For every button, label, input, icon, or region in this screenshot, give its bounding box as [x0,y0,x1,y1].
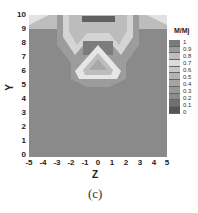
colorbar-label: 0.2 [183,95,191,101]
colorbar-label: 0.6 [183,67,191,73]
x-tick: 3 [133,158,147,167]
colorbar-swatch [169,73,180,80]
colorbar [169,40,180,114]
x-tick: -1 [78,158,92,167]
x-tick: -4 [36,158,50,167]
colorbar-swatch [169,47,180,54]
colorbar-label: 0.1 [183,102,191,108]
y-tick: 1 [14,136,26,145]
colorbar-label: 0.3 [183,88,191,94]
colorbar-swatch [169,53,180,60]
colorbar-label: 0.4 [183,81,191,87]
x-tick: 5 [160,158,174,167]
colorbar-swatch [169,107,180,114]
colorbar-swatch [169,87,180,94]
y-tick: 8 [14,38,26,47]
x-tick: 0 [91,158,105,167]
y-tick: 7 [14,52,26,61]
colorbar-swatch [169,80,180,87]
x-tick: -5 [22,158,36,167]
figure-caption: (c) [88,186,102,202]
colorbar-swatch [169,94,180,101]
contour-plot-area [29,15,167,157]
x-tick: -3 [50,158,64,167]
colorbar-label: 0.5 [183,74,191,80]
colorbar-label: 0 [183,109,186,115]
colorbar-title: M/Mj [174,27,190,34]
colorbar-swatch [169,40,180,47]
x-axis-label: Z [92,169,98,180]
x-tick: 4 [147,158,161,167]
x-tick: -2 [64,158,78,167]
colorbar-swatch [169,60,180,67]
contour-fill [29,15,167,157]
y-tick: 6 [14,66,26,75]
colorbar-label: 0.9 [183,46,191,52]
colorbar-label: 0.7 [183,60,191,66]
x-tick: 1 [105,158,119,167]
colorbar-swatch [169,67,180,74]
colorbar-label: 1 [183,39,186,45]
y-tick: 10 [14,10,26,19]
y-tick: 5 [14,80,26,89]
y-tick: 9 [14,24,26,33]
colorbar-swatch [169,100,180,107]
y-tick: 3 [14,108,26,117]
colorbar-label: 0.8 [183,53,191,59]
y-tick: 2 [14,122,26,131]
y-axis-label: Y [4,84,15,91]
x-tick: 2 [119,158,133,167]
y-tick: 4 [14,94,26,103]
